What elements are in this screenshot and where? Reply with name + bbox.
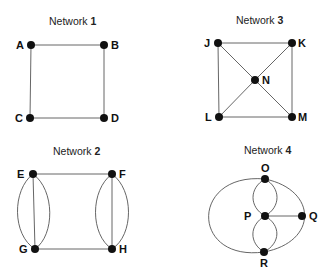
edge-o-p-arc-left [253,179,265,216]
edge-e-g-straight [33,174,35,249]
label-k: K [298,37,306,49]
network-3-title: Network 3 [236,14,283,26]
label-e: E [17,168,24,180]
network-4: Network 4 O P Q R [209,144,318,269]
network-1-title: Network 1 [49,15,96,27]
vertex-d [100,114,108,122]
label-m: M [298,111,307,123]
label-j: J [204,37,210,49]
vertex-p [261,212,269,220]
edge-o-r-arc-left [209,179,265,253]
vertex-e [29,170,37,178]
vertex-k [288,39,296,47]
network-1: Network 1 A B C D [15,15,119,124]
edge-n-m [255,80,292,117]
network-4-title: Network 4 [244,144,291,156]
edge-l-j [218,43,219,117]
edge-f-h-arc-right [112,174,129,249]
vertex-a [27,41,35,49]
label-p: P [244,210,251,222]
edge-p-r-arc-right [264,216,277,252]
label-a: A [16,39,24,51]
vertex-c [26,114,34,122]
network-diagrams: Network 1 A B C D Network 3 J K N L M [0,0,328,275]
vertex-g [31,245,39,253]
label-c: C [15,112,23,124]
vertex-q [298,212,306,220]
edge-o-p-arc-right [265,179,277,216]
edge-p-r-arc-left [253,216,265,252]
vertex-r [260,248,268,256]
edge-n-l [219,80,255,117]
vertex-m [288,113,296,121]
label-n: N [262,74,270,86]
vertex-f [108,170,116,178]
vertex-o [261,175,269,183]
edge-k-n [255,43,292,80]
network-3: Network 3 J K N L M [204,14,307,123]
label-g: G [19,243,28,255]
edge-e-g-arc-right [33,174,50,249]
edge-c-a [30,45,31,118]
edge-f-h-arc-left [96,174,113,249]
edge-j-n [218,43,255,80]
label-b: B [111,39,119,51]
label-r: R [260,257,268,269]
vertex-h [108,245,116,253]
vertex-b [100,41,108,49]
label-h: H [119,243,127,255]
edge-e-g-arc-left [17,174,35,249]
label-f: F [119,168,126,180]
vertex-j [214,39,222,47]
network-2-title: Network 2 [53,145,100,157]
label-l: L [205,111,212,123]
label-o: O [261,162,270,174]
vertex-l [215,113,223,121]
network-2: Network 2 E F G H [17,145,129,255]
vertex-n [251,76,259,84]
label-q: Q [309,210,318,222]
label-d: D [111,112,119,124]
